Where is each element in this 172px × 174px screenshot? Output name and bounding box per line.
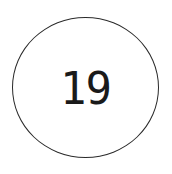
badge-number: 19: [60, 67, 111, 111]
number-badge: 19: [12, 17, 159, 158]
